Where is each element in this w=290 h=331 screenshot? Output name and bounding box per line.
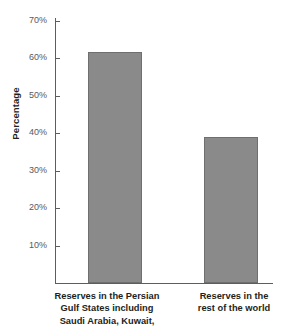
y-tick-label-20: 20%	[29, 203, 47, 212]
bar-chart: Percentage 70%60%50%40%30%20%10% Reserve…	[0, 0, 290, 331]
y-tick-20	[55, 208, 60, 209]
y-tick-50	[55, 96, 60, 97]
y-tick-label-70: 70%	[29, 16, 47, 25]
x-axis-line	[55, 283, 273, 284]
y-tick-label-40: 40%	[29, 128, 47, 137]
y-tick-label-50: 50%	[29, 91, 47, 100]
bar-1	[204, 137, 258, 283]
category-label-0-line-2: Saudi Arabia, Kuwait,	[36, 315, 178, 327]
y-tick-60	[55, 58, 60, 59]
y-axis-title: Percentage	[10, 69, 21, 159]
x-axis-category-label-0: Reserves in the PersianGulf States inclu…	[36, 290, 178, 327]
y-tick-label-60: 60%	[29, 53, 47, 62]
y-tick-40	[55, 133, 60, 134]
category-label-0-line-1: Gulf States including	[36, 302, 178, 314]
y-tick-70	[55, 21, 60, 22]
category-label-1-line-1: rest of the world	[178, 302, 290, 314]
category-label-1-line-0: Reserves in the	[178, 290, 290, 302]
x-axis-category-label-1: Reserves in therest of the world	[178, 290, 290, 315]
y-tick-30	[55, 171, 60, 172]
y-tick-label-30: 30%	[29, 166, 47, 175]
y-tick-label-10: 10%	[29, 241, 47, 250]
bar-0	[88, 52, 142, 283]
y-tick-10	[55, 246, 60, 247]
category-label-0-line-0: Reserves in the Persian	[36, 290, 178, 302]
